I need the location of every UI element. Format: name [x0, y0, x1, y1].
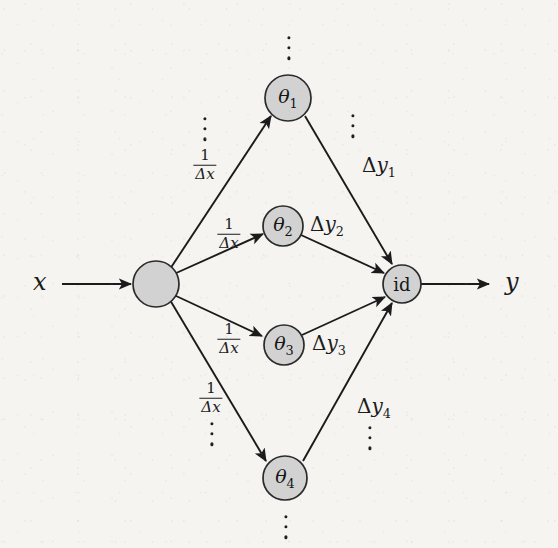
edge-theta2-to-id — [301, 235, 384, 273]
node-theta-4-label: θ4 — [275, 467, 295, 491]
node-hub[interactable] — [133, 261, 179, 307]
edge-label-delta-y-2: Δy2 — [310, 214, 344, 239]
ellipsis-below-delta-y-4 — [368, 426, 371, 450]
edge-label-inv-delta-x-4: 1 Δx — [199, 381, 222, 416]
node-theta-3-label: θ3 — [274, 334, 294, 358]
output-label: y — [505, 270, 519, 294]
edge-label-delta-y-3: Δy3 — [312, 333, 346, 358]
node-id-label: id — [393, 276, 410, 294]
ellipsis-above-delta-y-1 — [351, 114, 354, 138]
ellipsis-below-theta4 — [284, 515, 287, 539]
diagram-canvas: x y θ1 θ2 θ3 θ4 id 1 Δx 1 Δx 1 Δx 1 Δx Δ… — [0, 0, 558, 548]
edge-label-delta-y-4: Δy4 — [357, 396, 391, 421]
edge-label-delta-y-1: Δy1 — [362, 155, 396, 180]
edge-label-inv-delta-x-1: 1 Δx — [193, 148, 216, 183]
ellipsis-above-inv-delta-x-1 — [203, 117, 206, 141]
edge-theta3-to-id — [302, 297, 385, 335]
input-label: x — [33, 270, 47, 294]
ellipsis-above-theta1 — [287, 36, 290, 60]
edge-theta4-to-id — [303, 303, 392, 461]
ellipsis-below-inv-delta-x-4 — [210, 422, 213, 446]
edge-label-inv-delta-x-2: 1 Δx — [217, 217, 240, 252]
node-theta-2-label: θ2 — [273, 215, 293, 239]
node-theta-1-label: θ1 — [278, 87, 298, 111]
edge-label-inv-delta-x-3: 1 Δx — [217, 322, 240, 357]
